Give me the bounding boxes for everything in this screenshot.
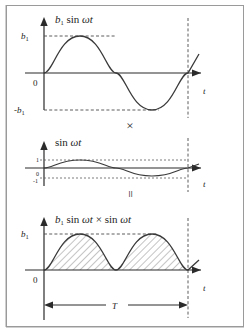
- panel-bottom-title: b1 sin ωt × sin ωt: [55, 213, 132, 226]
- panel-top-ylabel-negative: -b1: [14, 105, 25, 116]
- panel-bottom-period-arrow-right: [179, 302, 188, 309]
- panel-bottom-shaded-area: [44, 234, 188, 270]
- panel-middle-title: sin ωt: [55, 136, 82, 148]
- panel-top-ylabel-positive: b1: [21, 31, 29, 42]
- panel-top-xlabel: t: [203, 86, 206, 96]
- panel-middle-ylabel-origin: 0: [36, 171, 39, 177]
- panel-middle-ylabel-negative: -1: [33, 178, 38, 184]
- panel-bottom-period-arrow-left: [44, 302, 53, 309]
- panel-bottom-ylabel-positive: b1: [21, 229, 29, 240]
- panel-middle-xlabel: t: [203, 179, 206, 189]
- panel-bottom-ylabel-origin: 0: [33, 275, 38, 285]
- panel-bottom-x-arrow: [192, 267, 201, 274]
- panel-top-ylabel-origin: 0: [33, 78, 38, 88]
- panel-top-y-arrow: [40, 17, 47, 26]
- operator-multiply: ×: [115, 119, 145, 133]
- panel-bottom-chart: b1 sin ωt × sin ωt b1 0 t: [7, 208, 245, 328]
- panel-middle-y-arrow: [40, 141, 47, 150]
- plot-stack: b1 sin ωt b1 0 -b1 t ×: [7, 6, 245, 328]
- panel-top-x-arrow: [192, 70, 201, 77]
- panel-top-title: b1 sin ωt: [55, 13, 94, 26]
- figure-frame: b1 sin ωt b1 0 -b1 t ×: [6, 5, 244, 327]
- operator-equals: =: [123, 179, 137, 209]
- panel-top-chart: b1 sin ωt b1 0 -b1 t: [7, 6, 245, 118]
- panel-middle-ylabel-positive: 1: [36, 157, 39, 163]
- panel-bottom-xlabel: t: [203, 283, 206, 293]
- panel-bottom-y-arrow: [40, 217, 47, 226]
